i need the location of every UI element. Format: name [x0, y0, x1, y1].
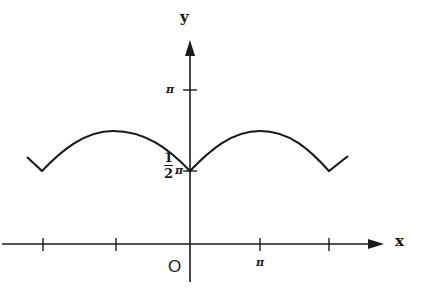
fraction-denominator: 2: [164, 167, 173, 180]
y-tick-label-pi: π: [166, 83, 174, 96]
x-tick-label-pi: π: [256, 256, 264, 269]
origin-label: O: [168, 257, 181, 277]
y-axis-arrow-icon: [185, 40, 195, 56]
y-tick-label-half-pi-symbol: π: [175, 164, 183, 177]
function-curve: [27, 131, 348, 171]
y-axis-label: y: [180, 8, 189, 26]
fraction-numerator: 1: [164, 151, 173, 164]
x-axis-label: x: [395, 232, 404, 250]
x-axis-arrow-icon: [368, 239, 384, 249]
function-plot: [0, 0, 424, 306]
y-tick-label-half-pi: 1 2: [164, 151, 173, 180]
